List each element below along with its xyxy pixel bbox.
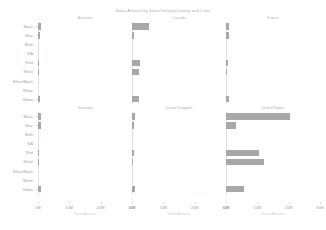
bar-row bbox=[132, 130, 226, 139]
bar-silver[interactable] bbox=[132, 159, 133, 165]
facet-panel-germany: Germany bbox=[38, 106, 132, 196]
bar-silver[interactable] bbox=[38, 69, 39, 75]
panel-title: Australia bbox=[38, 16, 132, 20]
y-axis-tick bbox=[36, 35, 38, 36]
bar-black[interactable] bbox=[38, 23, 41, 29]
bar-row bbox=[38, 67, 132, 76]
bar-yellow[interactable] bbox=[38, 96, 40, 102]
bar-series bbox=[132, 22, 226, 104]
bar-row bbox=[132, 176, 226, 185]
bar-yellow[interactable] bbox=[226, 186, 244, 192]
bar-row bbox=[226, 112, 320, 121]
bar-row bbox=[132, 77, 226, 86]
bar-series bbox=[38, 22, 132, 104]
facet-panel-canada: Canada bbox=[132, 16, 226, 106]
x-axis-tick-label: 10M bbox=[160, 205, 168, 210]
bar-row bbox=[226, 167, 320, 176]
x-axis-title: SalesAmount bbox=[132, 212, 226, 216]
x-axis-panel: 0M10M20M30MSalesAmount bbox=[226, 202, 320, 230]
bar-blue[interactable] bbox=[38, 32, 40, 38]
bar-black[interactable] bbox=[38, 113, 41, 119]
plot-area bbox=[132, 112, 226, 194]
facet-panel-united-states: United States bbox=[226, 106, 320, 196]
bar-black[interactable] bbox=[132, 113, 135, 119]
bar-row bbox=[38, 185, 132, 194]
plot-area bbox=[226, 22, 320, 104]
x-axis-title: SalesAmount bbox=[38, 212, 132, 216]
panel-title: United States bbox=[226, 106, 320, 110]
x-axis-tick-label: 0M bbox=[129, 205, 134, 210]
panel-title: United Kingdom bbox=[132, 106, 226, 110]
bar-row bbox=[38, 49, 132, 58]
bar-row bbox=[132, 67, 226, 76]
bar-row bbox=[38, 121, 132, 130]
bar-black[interactable] bbox=[132, 23, 149, 29]
bar-row bbox=[38, 31, 132, 40]
plot-area bbox=[226, 112, 320, 194]
bar-row bbox=[132, 157, 226, 166]
bar-row bbox=[132, 121, 226, 130]
plot-area bbox=[38, 22, 132, 104]
bar-red[interactable] bbox=[38, 60, 39, 66]
bar-red[interactable] bbox=[226, 60, 228, 66]
bar-row bbox=[226, 22, 320, 31]
bar-blue[interactable] bbox=[226, 32, 229, 38]
bar-black[interactable] bbox=[226, 23, 229, 29]
y-axis-label-silver-black: Silver/Black bbox=[0, 77, 36, 86]
x-axis-tick-label: 20M bbox=[97, 205, 105, 210]
bar-row bbox=[226, 95, 320, 104]
y-axis-label-silver: Silver bbox=[0, 157, 36, 166]
bar-row bbox=[226, 139, 320, 148]
bar-row bbox=[132, 139, 226, 148]
bar-red[interactable] bbox=[38, 150, 39, 156]
x-axis: 0M10M20M30MSalesAmount0M10M20M30MSalesAm… bbox=[0, 202, 326, 230]
facet-grid: AustraliaCanadaFrance GermanyUnited King… bbox=[0, 16, 326, 202]
y-axis-label-silver-black: Silver/Black bbox=[0, 167, 36, 176]
bar-red[interactable] bbox=[226, 150, 259, 156]
chart-title: Sales Amount by SalesTerritoryCountry an… bbox=[0, 8, 326, 13]
bar-blue[interactable] bbox=[132, 122, 134, 128]
bar-blue[interactable] bbox=[38, 122, 41, 128]
bar-row bbox=[226, 49, 320, 58]
bar-silver[interactable] bbox=[226, 159, 264, 165]
y-axis-labels-bottom: BlackBlueMultiNARedSilverSilver/BlackWhi… bbox=[0, 112, 36, 194]
bar-yellow[interactable] bbox=[226, 96, 229, 102]
y-axis-label-multi: Multi bbox=[0, 40, 36, 49]
bar-red[interactable] bbox=[132, 150, 134, 156]
bar-yellow[interactable] bbox=[38, 186, 41, 192]
bar-row bbox=[38, 95, 132, 104]
bar-blue[interactable] bbox=[132, 32, 134, 38]
bar-row bbox=[226, 130, 320, 139]
x-axis-title: SalesAmount bbox=[226, 212, 320, 216]
plot-area bbox=[38, 112, 132, 194]
facet-row-bottom: GermanyUnited KingdomUnited States bbox=[0, 106, 326, 196]
bar-row bbox=[38, 77, 132, 86]
bar-row bbox=[226, 185, 320, 194]
bar-blue[interactable] bbox=[226, 122, 236, 128]
bar-series bbox=[132, 112, 226, 194]
bar-red[interactable] bbox=[132, 60, 140, 66]
bar-yellow[interactable] bbox=[132, 96, 139, 102]
y-axis-label-multi: Multi bbox=[0, 130, 36, 139]
y-axis-label-red: Red bbox=[0, 58, 36, 67]
bar-silver[interactable] bbox=[132, 69, 139, 75]
panel-title: France bbox=[226, 16, 320, 20]
y-axis-tick bbox=[36, 99, 38, 100]
bar-yellow[interactable] bbox=[132, 186, 135, 192]
bar-row bbox=[226, 31, 320, 40]
bar-row bbox=[38, 40, 132, 49]
y-axis-label-blue: Blue bbox=[0, 31, 36, 40]
bar-row bbox=[38, 58, 132, 67]
y-axis-label-na: NA bbox=[0, 49, 36, 58]
y-axis-label-white: White bbox=[0, 176, 36, 185]
x-axis-tick-label: 10M bbox=[254, 205, 262, 210]
bar-row bbox=[38, 148, 132, 157]
bar-silver[interactable] bbox=[38, 159, 39, 165]
facet-panel-australia: Australia bbox=[38, 16, 132, 106]
bar-row bbox=[132, 95, 226, 104]
bar-black[interactable] bbox=[226, 113, 290, 119]
facet-panel-united-kingdom: United Kingdom bbox=[132, 106, 226, 196]
bar-silver[interactable] bbox=[226, 69, 227, 75]
x-axis-panel: 0M10M20M30MSalesAmount bbox=[132, 202, 226, 230]
bar-row bbox=[38, 157, 132, 166]
